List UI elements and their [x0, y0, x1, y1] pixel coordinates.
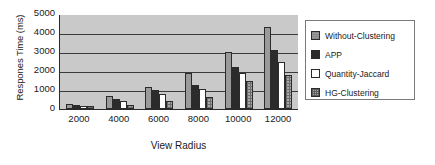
legend-swatch-icon [311, 31, 320, 40]
bar [106, 96, 113, 109]
bar [185, 73, 192, 109]
legend-item: HG-Clustering [311, 83, 414, 102]
x-tick-label: 10000 [218, 113, 258, 124]
bar-chart: Respones Time (ms) 500040003000200010000… [0, 0, 435, 165]
y-tick-label: 0 [50, 103, 55, 112]
bar [271, 50, 278, 109]
x-axis-tick-labels: 20004000600080001000012000 [59, 113, 298, 124]
bar [225, 52, 232, 109]
y-axis-tick-labels: 500040003000200010000 [20, 12, 55, 110]
y-tick-label: 2000 [34, 65, 55, 74]
legend-swatch-icon [311, 50, 320, 59]
bar-group [219, 15, 259, 109]
bar [166, 101, 173, 109]
bar [66, 104, 73, 109]
bar [159, 94, 166, 109]
legend-label: APP [325, 50, 342, 60]
legend-swatch-icon [311, 88, 320, 97]
bar [87, 106, 94, 109]
bar [278, 62, 285, 109]
x-tick-label: 2000 [59, 113, 99, 124]
y-tick-label: 1000 [34, 84, 55, 93]
bar [152, 90, 159, 109]
y-tick-label: 5000 [34, 8, 55, 17]
bar [285, 75, 292, 109]
bar [206, 97, 213, 109]
bar-groups [60, 15, 298, 109]
bar [127, 105, 134, 109]
bar [145, 87, 152, 109]
legend-label: HG-Clustering [325, 88, 379, 98]
bar [120, 101, 127, 109]
bar-group [139, 15, 179, 109]
x-axis-title: View Radius [59, 140, 298, 151]
bar [192, 85, 199, 109]
bar-group [60, 15, 100, 109]
legend-item: Without-Clustering [311, 26, 414, 45]
bar-group [179, 15, 219, 109]
plot-area [59, 15, 298, 110]
legend-item: Quantity-Jaccard [311, 64, 414, 83]
bar [73, 105, 80, 109]
bar [232, 67, 239, 109]
legend-swatch-icon [311, 69, 320, 78]
x-tick-label: 12000 [258, 113, 298, 124]
legend: Without-ClusteringAPPQuantity-JaccardHG-… [305, 20, 415, 100]
x-tick-label: 4000 [99, 113, 139, 124]
legend-label: Quantity-Jaccard [325, 69, 389, 79]
legend-label: Without-Clustering [325, 31, 395, 41]
bar [264, 27, 271, 109]
x-tick-label: 8000 [178, 113, 218, 124]
bar [80, 106, 87, 109]
y-tick-label: 4000 [34, 27, 55, 36]
bar [199, 89, 206, 109]
x-tick-label: 6000 [139, 113, 179, 124]
bar-group [100, 15, 140, 109]
bar [246, 81, 253, 110]
bar [239, 73, 246, 109]
bar [113, 99, 120, 109]
bar-group [258, 15, 298, 109]
y-tick-label: 3000 [34, 46, 55, 55]
legend-item: APP [311, 45, 414, 64]
